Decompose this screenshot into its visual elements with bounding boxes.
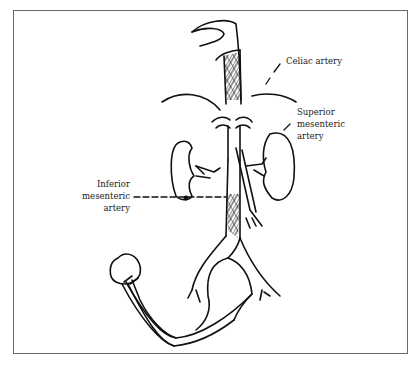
celiac-leader-1 xyxy=(274,64,280,72)
renal-junction xyxy=(212,117,252,160)
superior-mesenteric-leader xyxy=(284,124,290,130)
inferior-label-line-1: Inferior xyxy=(72,178,130,190)
superior-label-line-2: mesenteric xyxy=(297,118,345,130)
leader-lines xyxy=(134,64,290,197)
inferior-label-line-2: mesenteric xyxy=(72,190,130,202)
inferior-mesenteric-label: Inferior mesenteric artery xyxy=(72,178,130,214)
lower-aorta-graft xyxy=(226,160,240,238)
iliac-arteries xyxy=(188,236,280,330)
celiac-artery-label: Celiac artery xyxy=(286,55,342,67)
aorta-diagram xyxy=(0,0,420,368)
right-kidney xyxy=(246,133,294,200)
superior-mesenteric-label: Superior mesenteric artery xyxy=(297,106,345,142)
celiac-label-line: Celiac artery xyxy=(286,55,342,67)
femoral-graft-loop xyxy=(110,254,252,346)
superior-label-line-3: artery xyxy=(297,130,345,142)
inferior-mesenteric-origin-dot xyxy=(184,196,189,201)
inferior-label-line-3: artery xyxy=(72,202,130,214)
left-kidney xyxy=(171,141,220,200)
superior-label-line-1: Superior xyxy=(297,106,345,118)
upper-aorta-graft xyxy=(216,50,241,104)
celiac-leader-2 xyxy=(266,78,270,84)
